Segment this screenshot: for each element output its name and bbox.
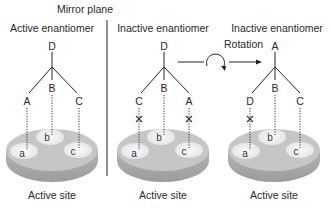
panel-active-enantiomer: Active enantiomer D B A C a b c Active s…	[6, 22, 98, 201]
rotate-icon	[206, 54, 224, 68]
atom-left: C	[135, 95, 143, 107]
mirror-plane-label: Mirror plane	[57, 3, 113, 15]
panel-inactive-enantiomer-1: Inactive enantiomer D B C A a b c Activ	[117, 22, 209, 201]
site-label-a: a	[19, 148, 25, 159]
panel-title: Active enantiomer	[10, 22, 95, 34]
bond-right	[52, 67, 77, 93]
atom-left: A	[23, 95, 30, 107]
atom-right: C	[75, 95, 83, 107]
binding-site-c	[64, 142, 92, 158]
panel-title: Inactive enantiomer	[117, 22, 209, 34]
atom-top: A	[271, 40, 278, 52]
site-label-b: b	[267, 132, 273, 143]
arrowhead-icon	[256, 60, 262, 65]
site-label-b: b	[44, 132, 50, 143]
active-site-label: Active site	[250, 189, 298, 201]
rotation-arrow: Rotation	[178, 38, 263, 71]
atom-left: D	[246, 95, 254, 107]
atom-right: A	[185, 95, 192, 107]
rotation-label: Rotation	[224, 38, 263, 50]
site-label-c: c	[294, 146, 299, 157]
site-label-a: a	[131, 148, 137, 159]
site-label-c: c	[71, 146, 76, 157]
panel-title: Inactive enantiomer	[231, 22, 323, 34]
atom-middle: B	[271, 82, 278, 94]
atom-top: D	[160, 40, 168, 52]
bond-right	[275, 67, 300, 93]
site-label-a: a	[242, 148, 248, 159]
bond-right	[164, 67, 189, 93]
atom-top: D	[48, 40, 56, 52]
site-label-b: b	[156, 132, 162, 143]
site-label-c: c	[182, 146, 187, 157]
atom-right: C	[296, 95, 304, 107]
active-site-label: Active site	[139, 189, 187, 201]
binding-site-b	[36, 129, 64, 145]
enantiomer-binding-diagram: Mirror plane Active enantiomer D B A C a…	[0, 0, 331, 208]
atom-middle: B	[160, 82, 167, 94]
atom-middle: B	[48, 82, 55, 94]
active-site-label: Active site	[28, 189, 76, 201]
